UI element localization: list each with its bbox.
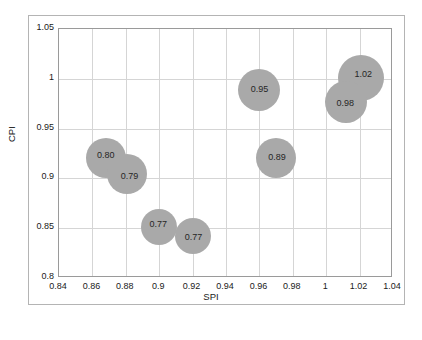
y-tick-label: 0.8	[22, 271, 54, 281]
x-tick-label: 0.84	[42, 281, 74, 291]
x-tick-label: 0.86	[75, 281, 107, 291]
y-tick-label: 0.95	[22, 122, 54, 132]
gridline-horizontal	[59, 129, 391, 130]
y-axis-title: CPI	[6, 126, 17, 142]
x-tick-label: 0.98	[276, 281, 308, 291]
x-tick-label: 1.02	[343, 281, 375, 291]
gridline-horizontal	[59, 228, 391, 229]
x-axis-title: SPI	[0, 291, 422, 302]
bubble-value-label: 0.79	[115, 171, 143, 181]
y-tick-label: 0.85	[22, 221, 54, 231]
x-tick-label: 0.9	[142, 281, 174, 291]
bubble-value-label: 0.89	[263, 152, 291, 162]
bubble-value-label: 0.77	[144, 219, 172, 229]
x-tick-label: 1	[309, 281, 341, 291]
gridline-vertical	[126, 29, 127, 276]
gridline-vertical	[226, 29, 227, 276]
bubble-value-label: 0.98	[331, 98, 359, 108]
x-tick-label: 0.94	[209, 281, 241, 291]
gridline-vertical	[326, 29, 327, 276]
x-tick-label: 1.04	[376, 281, 408, 291]
y-tick-label: 1.05	[22, 22, 54, 32]
bubble-value-label: 0.80	[92, 150, 120, 160]
bubble-value-label: 0.95	[245, 84, 273, 94]
y-tick-label: 1	[22, 72, 54, 82]
x-tick-label: 0.96	[242, 281, 274, 291]
plot-area: 0.800.790.770.770.950.891.020.98	[58, 28, 392, 277]
y-tick-label: 0.9	[22, 171, 54, 181]
x-tick-label: 0.88	[109, 281, 141, 291]
bubble-chart-figure: 0.800.790.770.770.950.891.020.98 0.80.85…	[0, 0, 422, 340]
x-tick-label: 0.92	[176, 281, 208, 291]
bubble-value-label: 0.77	[180, 232, 208, 242]
bubble-value-label: 1.02	[349, 69, 377, 79]
